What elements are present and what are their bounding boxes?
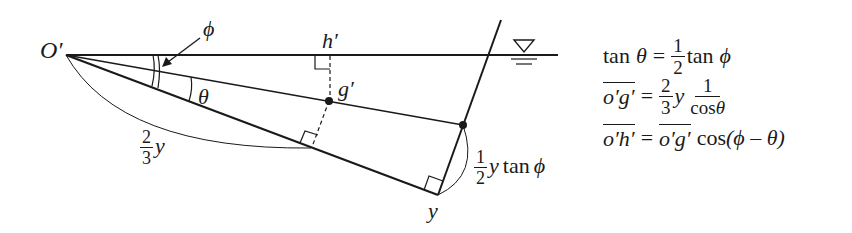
denominator: 3 [142, 148, 151, 167]
numerator: 1 [695, 76, 721, 97]
segment-og: o′g′ [603, 82, 635, 110]
variable-y: y [489, 153, 499, 178]
equals-sign: = [641, 125, 653, 151]
equals-sign: = [653, 43, 665, 69]
fraction: 1 2 [474, 148, 487, 187]
g-prime-perpendicular-dashed [312, 101, 329, 147]
theta-angle-arc [189, 77, 192, 101]
cos-function: cos [690, 97, 715, 118]
fraction: 2 3 [140, 128, 153, 167]
equals-sign: = [641, 83, 653, 109]
slip-line [66, 55, 438, 195]
centroid-line [66, 55, 463, 125]
phi-arrow-head [162, 57, 172, 67]
numerator: 1 [474, 148, 487, 168]
label-h-prime: h′ [322, 30, 338, 52]
denominator: 2 [673, 57, 683, 77]
numerator: 2 [140, 128, 153, 148]
cos-function: cos [697, 125, 726, 151]
equation-2: o′g′ = 2 3 y 1 cosθ [603, 76, 727, 116]
tan-function: tan [503, 153, 530, 178]
tan-function: tan [603, 43, 630, 69]
tan-function: tan [687, 43, 714, 69]
variable-y: y [155, 133, 165, 158]
denominator: cosθ [690, 97, 725, 117]
denominator: 3 [661, 97, 671, 117]
label-g-prime: g′ [338, 78, 354, 100]
variable-y: y [675, 83, 685, 109]
g-prime-point [325, 97, 333, 105]
theta-symbol: θ [636, 43, 647, 69]
numerator: 1 [671, 36, 685, 57]
fraction-two-thirds: 2 3 [659, 76, 673, 117]
label-half-y-tan-phi: 1 2 ytanϕ [474, 148, 545, 187]
numerator: 2 [659, 76, 673, 97]
theta-symbol: θ [716, 97, 725, 118]
label-two-thirds-y: 2 3 y [140, 128, 165, 167]
equation-3: o′h′ = o′g′ cos (ϕ – θ) [603, 118, 785, 158]
fraction-half: 1 2 [671, 36, 685, 77]
label-phi: ϕ [203, 18, 214, 40]
fraction-one-over-cos: 1 cosθ [690, 76, 725, 117]
water-level-triangle-icon [514, 40, 534, 52]
label-y-bottom: y [428, 200, 438, 222]
phi-symbol: ϕ [720, 43, 731, 69]
phi-arrow-line [168, 38, 200, 62]
label-origin: O′ [40, 38, 63, 62]
equation-1: tan θ = 1 2 tan ϕ [603, 36, 731, 76]
label-theta: θ [198, 86, 209, 108]
phi-symbol: ϕ [534, 153, 545, 178]
phi-minus-theta: (ϕ – θ) [726, 125, 785, 151]
denominator: 2 [476, 168, 485, 187]
right-angle-h [315, 56, 330, 69]
segment-oh: o′h′ [603, 124, 635, 152]
segment-og: o′g′ [659, 124, 691, 152]
